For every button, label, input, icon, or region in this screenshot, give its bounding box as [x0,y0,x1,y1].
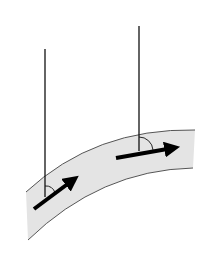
curved-band-diagram [0,0,212,255]
